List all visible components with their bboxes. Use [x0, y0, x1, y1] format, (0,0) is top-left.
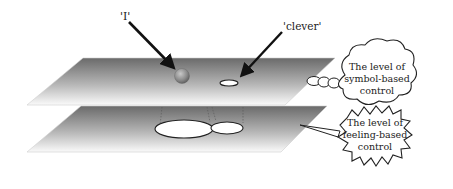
symbol-control-callout: The level of symbol-based control [338, 39, 416, 105]
layered-control-diagram: 'I' 'clever' The level of symbol-based c… [0, 0, 453, 189]
label-i: 'I' [120, 10, 130, 23]
svg-text:control: control [360, 85, 394, 96]
svg-text:The level of: The level of [349, 61, 407, 72]
svg-text:control: control [358, 141, 392, 152]
svg-text:symbol-based: symbol-based [344, 73, 410, 84]
sphere-i [175, 69, 190, 84]
small-ellipse-clever [220, 80, 238, 86]
large-ellipse [155, 120, 213, 138]
thought-bubbles [307, 77, 340, 89]
medium-ellipse [211, 122, 243, 134]
svg-text:feeling-based: feeling-based [343, 129, 408, 140]
svg-text:The level of: The level of [347, 117, 405, 128]
starburst-pointer [300, 125, 340, 137]
label-clever: 'clever' [283, 20, 321, 32]
